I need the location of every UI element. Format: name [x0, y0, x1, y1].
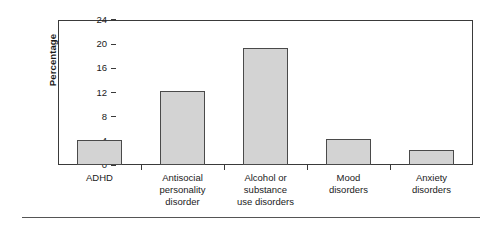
x-axis-category-label-line: disorders	[390, 184, 473, 196]
bottom-horizontal-rule	[22, 217, 480, 218]
x-axis-tick-mark	[141, 165, 142, 170]
bar	[243, 48, 288, 165]
bar	[326, 139, 371, 165]
x-axis-category-label-line: Antisocial	[141, 172, 224, 184]
y-axis-tick-label: 24	[96, 13, 107, 27]
x-axis-category-label: Anxietydisorders	[390, 172, 473, 196]
x-axis-category-label-line: personality	[141, 184, 224, 196]
x-axis-category-label-line: Anxiety	[390, 172, 473, 184]
x-axis-category-label-line: ADHD	[58, 172, 141, 184]
x-axis-tick-mark	[390, 165, 391, 170]
x-axis-category-label-line: use disorders	[224, 196, 307, 208]
x-axis-category-label-line: Mood	[307, 172, 390, 184]
x-axis-category-label: Alcohol orsubstanceuse disorders	[224, 172, 307, 209]
bar-chart-figure: Percentage 04812162024 ADHDAntisocialper…	[0, 0, 491, 227]
x-axis-category-label-line: disorder	[141, 196, 224, 208]
x-axis-tick-mark	[224, 165, 225, 170]
x-axis-category-label: Mooddisorders	[307, 172, 390, 196]
x-axis-category-label: ADHD	[58, 172, 141, 184]
y-axis-tick-label: 16	[96, 61, 107, 75]
x-axis-category-label-line: substance	[224, 184, 307, 196]
y-axis-tick-label: 12	[96, 86, 107, 100]
y-axis-tick-mark	[111, 92, 116, 93]
x-axis-category-label-line: disorders	[307, 184, 390, 196]
x-axis-category-label: Antisocialpersonalitydisorder	[141, 172, 224, 209]
y-axis-tick-mark	[111, 44, 116, 45]
y-axis-tick-mark	[111, 116, 116, 117]
bar	[77, 140, 122, 165]
x-axis-tick-mark	[307, 165, 308, 170]
bar	[409, 150, 454, 165]
bar	[160, 91, 205, 165]
x-axis-category-label-line: Alcohol or	[224, 172, 307, 184]
plot-area: 04812162024	[58, 20, 473, 165]
y-axis-tick-label: 20	[96, 37, 107, 51]
y-axis-tick-mark	[111, 68, 116, 69]
y-axis-tick-mark	[111, 19, 116, 20]
y-axis-tick-label: 8	[102, 110, 107, 124]
